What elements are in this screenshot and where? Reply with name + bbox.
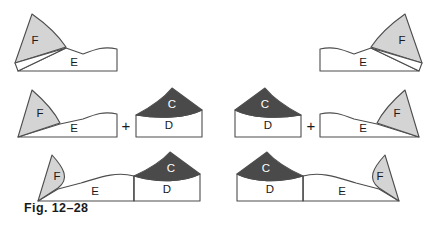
row3-right-label-C: C xyxy=(262,162,270,174)
row2-left-FE-block: F E xyxy=(18,90,117,137)
row2-left-label-F: F xyxy=(36,107,43,119)
row2-right-plus-operator: + xyxy=(307,117,316,134)
row2-right-EF-block xyxy=(320,90,419,137)
row2-right-label-C: C xyxy=(261,98,269,110)
figure-caption: Fig. 12–28 xyxy=(24,201,88,215)
row1-left-label-F: F xyxy=(31,34,38,46)
row1-left-segment: F E xyxy=(15,14,117,71)
row3-right-label-D: D xyxy=(266,183,274,195)
row3-left-label-F: F xyxy=(53,170,60,182)
row2-left-label-E: E xyxy=(70,122,78,134)
figure-container: F E F E F E + C D xyxy=(0,0,437,225)
row3-right-combined xyxy=(237,152,399,201)
row3-left-combined: F E C D xyxy=(38,152,200,201)
row1-right-label-E: E xyxy=(359,56,367,68)
row3-left-label-D: D xyxy=(163,183,171,195)
row1-right-segment xyxy=(320,14,422,71)
row3-left-label-E: E xyxy=(91,185,99,197)
row2-right-label-F: F xyxy=(393,107,400,119)
row2-right-label-D: D xyxy=(264,119,272,131)
row2-right-label-E: E xyxy=(359,122,367,134)
row2-left-plus-operator: + xyxy=(122,117,131,134)
row3-right-label-E: E xyxy=(338,185,346,197)
row2-left-CD-block: C D xyxy=(136,88,202,137)
row1-left-label-E: E xyxy=(70,56,78,68)
figure-12-28-diagram: F E F E F E + C D xyxy=(0,0,437,225)
row3-right-label-F: F xyxy=(376,170,383,182)
row2-left-label-D: D xyxy=(165,119,173,131)
row3-left-label-C: C xyxy=(167,162,175,174)
row1-right-label-F: F xyxy=(398,34,405,46)
row2-left-label-C: C xyxy=(168,98,176,110)
